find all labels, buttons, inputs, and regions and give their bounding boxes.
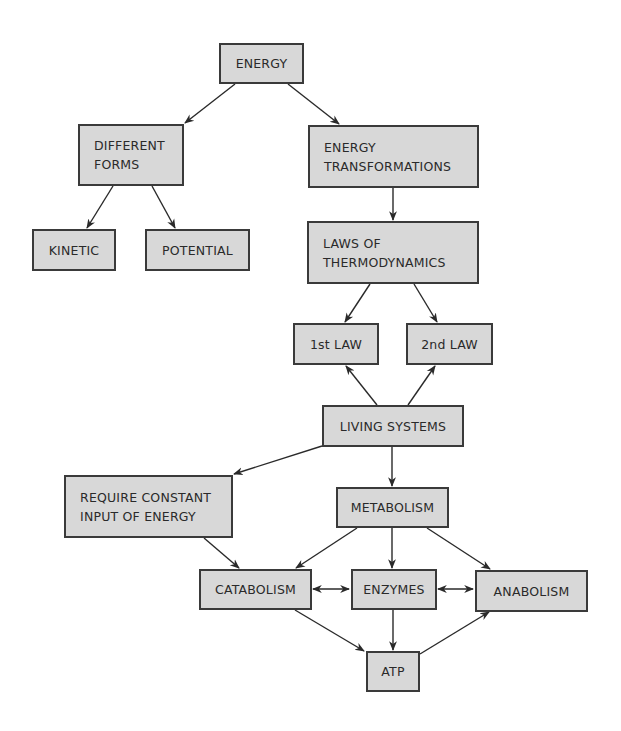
node-potential: POTENTIAL bbox=[145, 229, 250, 271]
edge-atp-anabolism bbox=[420, 612, 489, 654]
edge-living-require bbox=[234, 446, 322, 474]
edge-living-first bbox=[346, 366, 377, 405]
node-potential-label: POTENTIAL bbox=[162, 241, 233, 260]
edge-require-catabolism bbox=[204, 538, 239, 568]
node-second-law-label: 2nd LAW bbox=[421, 335, 478, 354]
node-atp: ATP bbox=[366, 651, 420, 692]
node-laws-label: LAWS OF THERMODYNAMICS bbox=[323, 234, 446, 272]
edge-energy-transform bbox=[288, 84, 339, 124]
node-energy-transformations-label: ENERGY TRANSFORMATIONS bbox=[324, 138, 451, 176]
node-anabolism-label: ANABOLISM bbox=[494, 582, 570, 601]
node-first-law: 1st LAW bbox=[293, 323, 379, 365]
edges-layer bbox=[0, 0, 621, 731]
node-living-systems: LIVING SYSTEMS bbox=[322, 405, 464, 447]
node-atp-label: ATP bbox=[381, 662, 404, 681]
edge-living-second bbox=[408, 366, 435, 405]
node-require-label: REQUIRE CONSTANT INPUT OF ENERGY bbox=[80, 488, 211, 526]
node-require-constant-input: REQUIRE CONSTANT INPUT OF ENERGY bbox=[64, 475, 233, 538]
node-enzymes-label: ENZYMES bbox=[363, 580, 424, 599]
node-energy: ENERGY bbox=[219, 43, 304, 84]
node-anabolism: ANABOLISM bbox=[475, 570, 588, 612]
node-enzymes: ENZYMES bbox=[351, 569, 437, 610]
edge-forms-kinetic bbox=[87, 186, 113, 228]
edge-metabolism-anabolism bbox=[427, 528, 490, 569]
node-energy-transformations: ENERGY TRANSFORMATIONS bbox=[308, 125, 479, 188]
energy-concept-map: ENERGY DIFFERENT FORMS ENERGY TRANSFORMA… bbox=[0, 0, 621, 731]
node-first-law-label: 1st LAW bbox=[310, 335, 362, 354]
edge-metabolism-catabolism bbox=[296, 528, 357, 568]
node-catabolism: CATABOLISM bbox=[199, 569, 312, 610]
node-living-systems-label: LIVING SYSTEMS bbox=[340, 417, 446, 436]
node-second-law: 2nd LAW bbox=[406, 323, 493, 365]
node-different-forms-label: DIFFERENT FORMS bbox=[94, 136, 165, 174]
node-energy-label: ENERGY bbox=[236, 54, 288, 73]
node-laws-of-thermodynamics: LAWS OF THERMODYNAMICS bbox=[307, 221, 479, 284]
edge-energy-forms bbox=[185, 84, 235, 123]
edge-forms-potential bbox=[152, 186, 175, 228]
edge-catabolism-atp bbox=[295, 610, 364, 651]
node-different-forms: DIFFERENT FORMS bbox=[78, 124, 184, 186]
node-kinetic: KINETIC bbox=[32, 229, 116, 271]
edge-laws-second bbox=[414, 284, 437, 322]
node-metabolism-label: METABOLISM bbox=[351, 498, 434, 517]
edge-laws-first bbox=[345, 284, 370, 322]
node-catabolism-label: CATABOLISM bbox=[215, 580, 296, 599]
node-metabolism: METABOLISM bbox=[336, 487, 449, 528]
node-kinetic-label: KINETIC bbox=[49, 241, 100, 260]
